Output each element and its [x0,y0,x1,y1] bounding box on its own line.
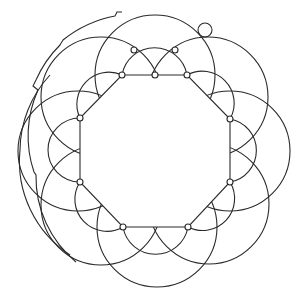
outer-frame-arc-2 [19,75,70,255]
diagram [0,0,298,293]
top-loop [198,23,212,37]
octagon-arc-ornament [0,0,298,293]
octagon-fill [80,75,230,227]
